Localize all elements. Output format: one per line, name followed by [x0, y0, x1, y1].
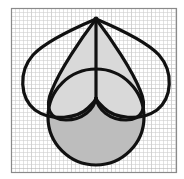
- diagram-canvas: [0, 0, 184, 179]
- apex-point: [93, 16, 98, 21]
